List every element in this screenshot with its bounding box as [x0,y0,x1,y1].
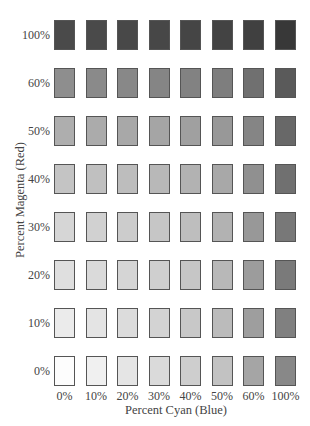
color-swatch-cell [243,212,264,242]
color-swatch-cell [54,260,75,290]
color-swatch-cell [212,116,233,146]
color-swatch-cell [180,68,201,98]
color-swatch-cell [54,164,75,194]
color-swatch-cell [275,116,296,146]
color-swatch-cell [275,260,296,290]
color-swatch-cell [243,164,264,194]
color-swatch-cell [54,356,75,386]
color-swatch-cell [243,260,264,290]
row-label: 0% [10,364,50,378]
color-swatch-cell [86,308,107,338]
color-swatch-cell [180,356,201,386]
color-swatch-cell [117,212,138,242]
row-label: 30% [10,220,50,234]
column-label: 60% [239,389,269,403]
color-swatch-cell [149,260,170,290]
color-swatch-cell [117,308,138,338]
color-swatch-cell [243,308,264,338]
color-swatch-cell [117,260,138,290]
color-swatch-cell [149,356,170,386]
color-swatch-cell [86,164,107,194]
color-swatch-cell [149,308,170,338]
color-swatch-cell [86,116,107,146]
row-label: 50% [10,124,50,138]
cyan-magenta-grid-chart: Percent Magenta (Red) Percent Cyan (Blue… [0,0,310,426]
color-swatch-cell [180,20,201,50]
color-swatch-cell [212,68,233,98]
row-label: 60% [10,76,50,90]
color-swatch-cell [86,68,107,98]
column-label: 50% [207,389,237,403]
color-swatch-cell [117,164,138,194]
color-swatch-cell [149,116,170,146]
color-swatch-cell [149,164,170,194]
color-swatch-cell [212,308,233,338]
x-axis-title: Percent Cyan (Blue) [54,403,298,418]
color-swatch-cell [149,20,170,50]
color-swatch-cell [54,68,75,98]
color-swatch-cell [243,116,264,146]
color-swatch-cell [149,68,170,98]
color-swatch-cell [180,308,201,338]
color-swatch-cell [275,308,296,338]
column-label: 0% [50,389,80,403]
color-swatch-cell [275,212,296,242]
color-swatch-cell [117,116,138,146]
row-label: 100% [10,28,50,42]
color-swatch-cell [117,20,138,50]
color-swatch-cell [212,164,233,194]
color-swatch-cell [117,68,138,98]
color-swatch-cell [54,116,75,146]
color-swatch-cell [180,212,201,242]
color-swatch-cell [86,260,107,290]
column-label: 10% [81,389,111,403]
color-swatch-cell [180,164,201,194]
color-swatch-cell [243,68,264,98]
row-label: 20% [10,268,50,282]
row-label: 10% [10,316,50,330]
column-label: 20% [113,389,143,403]
color-swatch-cell [212,212,233,242]
color-swatch-cell [212,356,233,386]
color-swatch-cell [275,20,296,50]
color-swatch-cell [243,20,264,50]
color-swatch-cell [54,212,75,242]
color-swatch-cell [117,356,138,386]
color-swatch-cell [275,164,296,194]
color-swatch-cell [86,20,107,50]
color-swatch-cell [180,260,201,290]
color-swatch-cell [54,20,75,50]
color-swatch-cell [275,356,296,386]
color-swatch-cell [212,20,233,50]
row-label: 40% [10,172,50,186]
color-swatch-cell [54,308,75,338]
color-swatch-cell [243,356,264,386]
color-swatch-cell [149,212,170,242]
column-label: 40% [176,389,206,403]
color-swatch-cell [180,116,201,146]
color-swatch-cell [86,356,107,386]
color-swatch-cell [275,68,296,98]
column-label: 100% [271,389,301,403]
column-label: 30% [144,389,174,403]
color-swatch-cell [86,212,107,242]
y-axis-title: Percent Magenta (Red) [13,142,28,258]
color-swatch-cell [212,260,233,290]
